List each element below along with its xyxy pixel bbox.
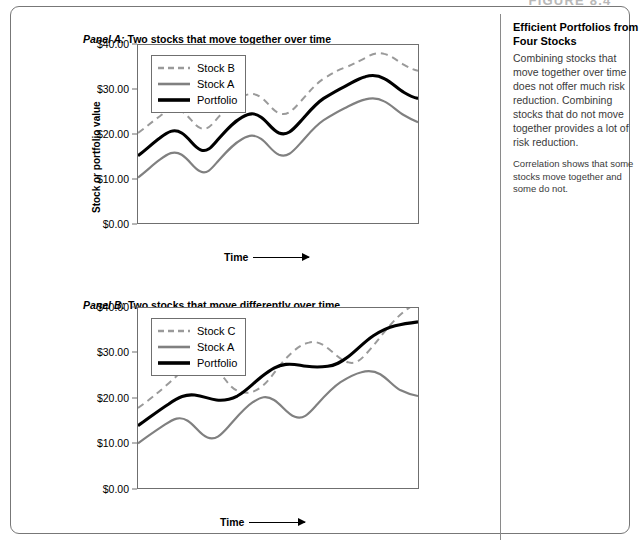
figure-frame: Panel A: Two stocks that move together o… [10,6,630,534]
panel-a-plot-area: Stock B Stock A Portfolio [137,44,419,224]
panel-b-legend-label-portfolio: Portfolio [197,357,237,369]
panel-b-y-tick-40: $40.00 [69,301,129,313]
panel-a-legend-row-portfolio: Portfolio [158,92,237,108]
panel-a-y-tick-10: $10.00 [69,173,129,185]
caption-title: Efficient Portfolios from Four Stocks [513,21,639,48]
panel-b-legend: Stock C Stock A Portfolio [151,318,246,376]
panel-b-legend-label-stock-c: Stock C [197,325,236,337]
panel-b-y-tick-30: $30.00 [69,346,129,358]
panel-a: Panel A: Two stocks that move together o… [11,13,500,283]
panel-b-x-axis-label: Time [220,516,305,528]
panel-a-legend-label-portfolio: Portfolio [197,94,237,106]
panel-a-legend: Stock B Stock A Portfolio [151,55,246,113]
panel-b-y-tick-10: $10.00 [69,437,129,449]
thick-solid-line-icon [158,95,190,105]
panel-b-legend-label-stock-a: Stock A [197,341,234,353]
panel-b-y-ticks: $40.00 $30.00 $20.00 $10.00 $0.00 [65,279,129,515]
panel-a-y-ticks: $40.00 $30.00 $20.00 $10.00 $0.00 [65,13,129,253]
dashed-line-icon [158,63,190,73]
panel-a-y-tick-20: $20.00 [69,128,129,140]
panel-b-legend-row-stock-a: Stock A [158,339,237,355]
panel-a-y-tick-30: $30.00 [69,83,129,95]
thick-solid-line-icon [158,358,190,368]
panel-a-legend-label-stock-b: Stock B [197,62,235,74]
panel-a-x-axis-text: Time [224,251,248,263]
panel-b-x-axis-text: Time [220,516,244,528]
solid-line-icon [158,79,190,89]
panel-b-plot-area: Stock C Stock A Portfolio [137,307,419,489]
caption-note: Correlation shows that some stocks move … [513,158,639,196]
column-divider [500,14,501,540]
panel-a-x-axis-label: Time [224,251,309,263]
panel-b-y-tick-0: $0.00 [69,483,129,495]
arrow-right-icon [253,257,309,258]
panel-b-legend-row-portfolio: Portfolio [158,355,237,371]
panel-b-legend-row-stock-c: Stock C [158,323,237,339]
panel-a-y-tick-0: $0.00 [69,218,129,230]
arrow-right-icon [249,522,305,523]
panel-a-legend-row-stock-b: Stock B [158,60,237,76]
caption-column: Efficient Portfolios from Four Stocks Co… [513,21,639,196]
panel-b-y-tick-20: $20.00 [69,392,129,404]
panel-b: Panel B: Two stocks that move differentl… [11,279,500,541]
panel-a-legend-label-stock-a: Stock A [197,78,234,90]
solid-line-icon [158,342,190,352]
panel-a-legend-row-stock-a: Stock A [158,76,237,92]
panel-a-y-tick-40: $40.00 [69,38,129,50]
dashed-line-icon [158,326,190,336]
panel-b-series-stock-a [138,371,418,444]
caption-body: Combining stocks that move together over… [513,51,639,149]
